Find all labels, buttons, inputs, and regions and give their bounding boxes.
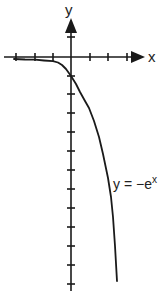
y-axis-label: y bbox=[65, 1, 73, 18]
graph: y x y = −ex bbox=[0, 0, 162, 291]
x-axis-label: x bbox=[148, 48, 156, 65]
y-axis bbox=[67, 28, 75, 291]
curve-label: y = −ex bbox=[113, 174, 157, 192]
curve-neg-exp bbox=[14, 59, 117, 281]
curve-label-base: y = −e bbox=[113, 176, 152, 192]
y-axis-arrow-icon bbox=[65, 18, 77, 33]
x-axis-arrow-icon bbox=[131, 51, 145, 63]
curve-label-exponent: x bbox=[152, 174, 157, 185]
